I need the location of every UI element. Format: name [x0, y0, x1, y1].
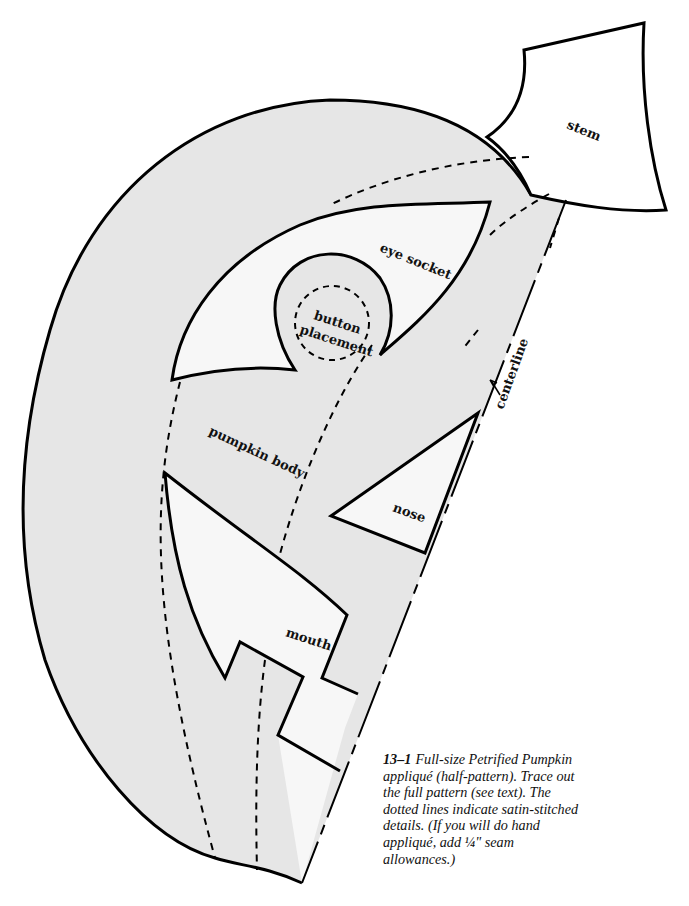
figure-number: 13–1: [383, 751, 411, 767]
figure-caption: 13–1Full-size Petrified Pumpkin appliqué…: [383, 751, 583, 867]
figure-caption-text: Full-size Petrified Pumpkin appliqué (ha…: [383, 751, 578, 867]
pumpkin-applique-pattern: stem eye socket button placement pumpkin…: [0, 0, 689, 906]
